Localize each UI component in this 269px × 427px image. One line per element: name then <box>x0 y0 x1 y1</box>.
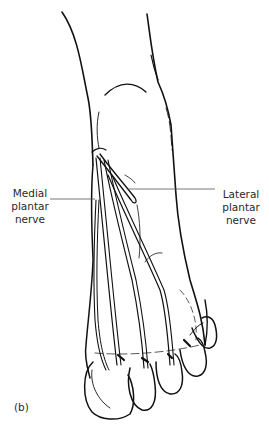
label-line: Lateral <box>216 188 266 201</box>
label-line: plantar <box>216 201 266 214</box>
leg-medial-outline <box>62 12 93 165</box>
panel-label: (b) <box>14 401 29 413</box>
fourth-toe <box>180 338 206 376</box>
leg-lateral-outline <box>147 14 205 345</box>
label-line: Medial <box>6 187 54 200</box>
medial-nerve-branch-4 <box>94 200 106 370</box>
nerve-origin <box>92 148 106 152</box>
label-line: nerve <box>216 214 266 227</box>
label-line: nerve <box>6 213 54 226</box>
medial-plantar-nerve-label: Medial plantar nerve <box>6 187 54 226</box>
label-line: plantar <box>6 200 54 213</box>
lateral-plantar-nerve-label: Lateral plantar nerve <box>216 188 266 227</box>
heel-arc <box>105 84 146 95</box>
foot-medial-outline <box>85 165 93 378</box>
